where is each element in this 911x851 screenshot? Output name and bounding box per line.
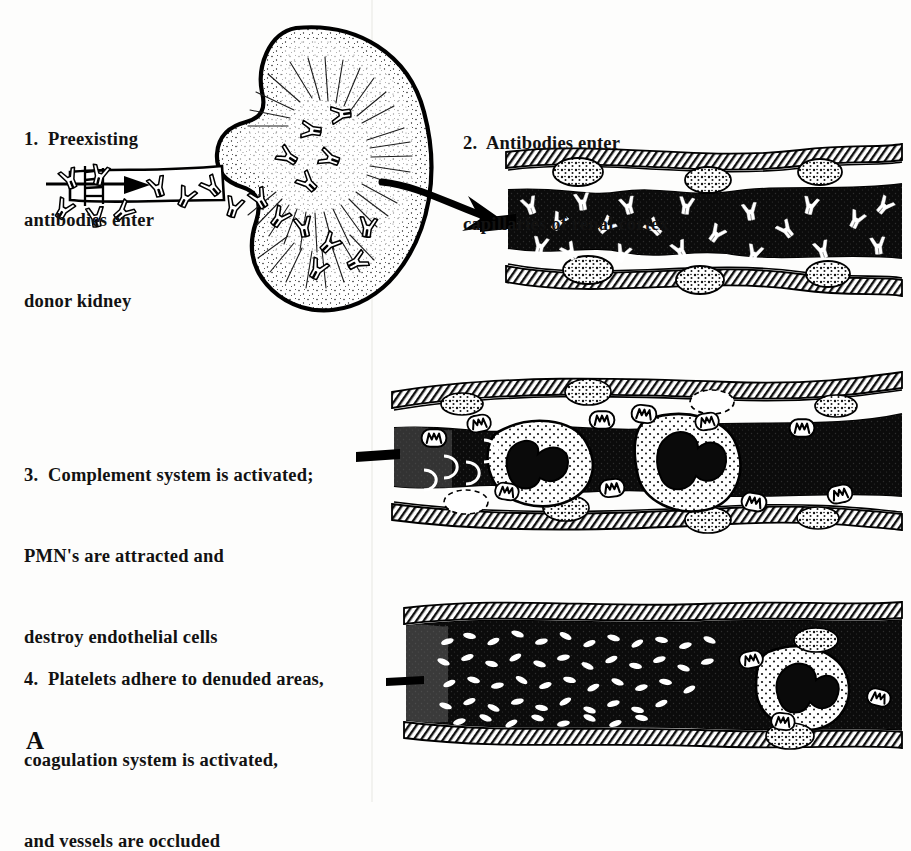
capillary-panel-thrombus: [386, 602, 902, 749]
step-4-line-3: and vessels are occluded: [24, 828, 324, 851]
pmn-cell: [756, 647, 849, 730]
step-2-line-2: capillaries of renal cortex: [463, 211, 669, 238]
step-1-line-1: 1. Preexisting: [24, 126, 154, 153]
step-4-line-1: 4. Platelets adhere to denuded areas,: [24, 666, 324, 693]
step-1-line-2: antibodies enter: [24, 207, 154, 234]
step-2-line-1: 2. Antibodies enter: [463, 130, 669, 157]
step-4-line-2: coagulation system is activated,: [24, 747, 324, 774]
step-3-line-1: 3. Complement system is activated;: [24, 462, 314, 489]
endothelial-nucleus: [794, 628, 838, 652]
denuded-zone: [406, 625, 448, 723]
step-2-caption: 2. Antibodies enter capillaries of renal…: [463, 76, 669, 265]
plate-label: A: [26, 727, 44, 755]
step-4-caption: 4. Platelets adhere to denuded areas, co…: [24, 612, 324, 851]
step-3-line-2: PMN's are attracted and: [24, 543, 314, 570]
pmn-cell: [635, 414, 741, 511]
step-1-line-3: donor kidney: [24, 288, 154, 315]
step-1-caption: 1. Preexisting antibodies enter donor ki…: [24, 72, 154, 342]
